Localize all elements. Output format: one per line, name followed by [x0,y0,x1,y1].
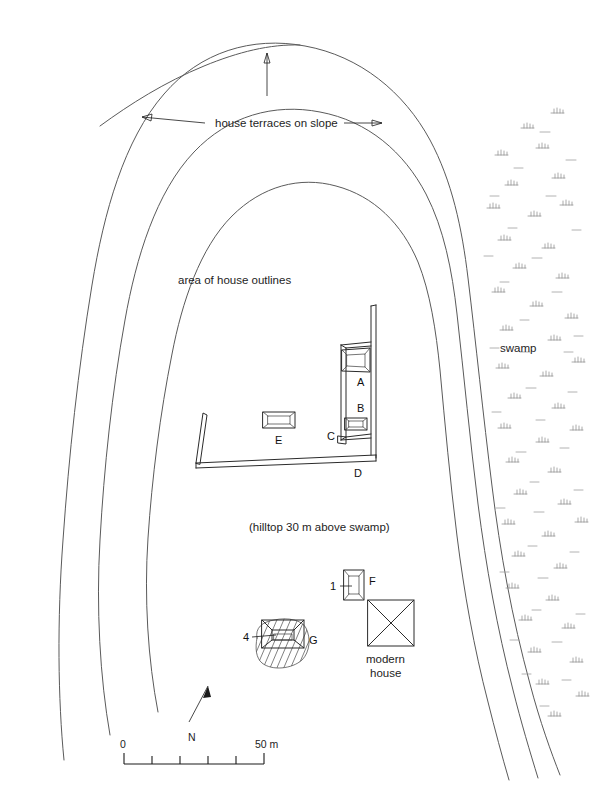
structure-label-B: B [357,402,364,414]
house-outlines-label: area of house outlines [178,274,291,286]
hilltop-elevation-label: (hilltop 30 m above swamp) [249,521,390,533]
structure-label-C: C [327,430,335,442]
structure-label-D: D [354,467,362,479]
excavation-label-1: 1 [330,580,336,592]
modern-house-label-line2: house [370,667,401,679]
structure-label-G: G [309,634,318,646]
modern-house-label-line1: modern [366,653,405,665]
structure-label-E: E [275,434,282,446]
structure-label-A: A [357,376,365,388]
structure-label-F: F [369,575,376,587]
north-arrow-label: N [188,731,196,743]
site-plan-figure: house terraces on slope area of house ou… [0,0,594,785]
site-plan-svg: house terraces on slope area of house ou… [0,0,594,785]
terraces-label: house terraces on slope [215,117,338,129]
scale-min-label: 0 [120,738,126,750]
scale-max-label: 50 m [255,738,279,750]
swamp-label: swamp [500,342,536,354]
excavation-label-4: 4 [243,631,249,643]
